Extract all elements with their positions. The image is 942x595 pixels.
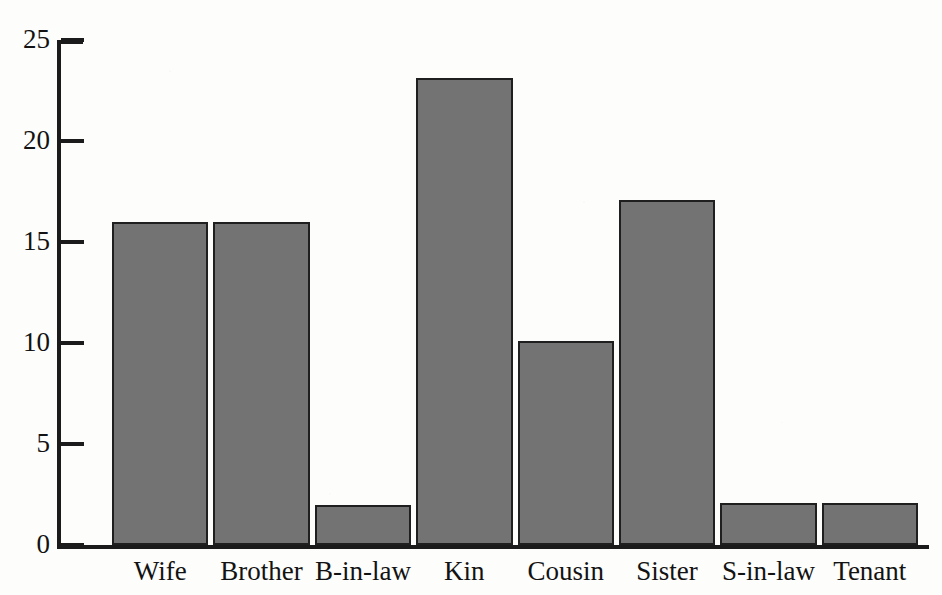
bar[interactable] — [112, 222, 208, 545]
bar-slot[interactable]: Brother — [213, 222, 309, 545]
bar[interactable] — [619, 200, 715, 545]
bar[interactable] — [822, 503, 918, 545]
y-axis-tick-label: 15 — [23, 228, 50, 255]
bar[interactable] — [416, 78, 512, 545]
x-axis-tick-label: Wife — [134, 558, 187, 585]
bar[interactable] — [213, 222, 309, 545]
x-axis-tick-label: Cousin — [527, 558, 604, 585]
bar[interactable] — [720, 503, 816, 545]
bar-slot[interactable]: Kin — [416, 78, 512, 545]
x-axis-spine — [57, 545, 929, 549]
x-axis-tick-label: Brother — [220, 558, 302, 585]
x-axis-tick-label: B-in-law — [315, 558, 411, 585]
bar-slot[interactable]: Tenant — [822, 503, 918, 545]
bar-slot[interactable]: Wife — [112, 222, 208, 545]
bar[interactable] — [518, 341, 614, 545]
bar-slot[interactable]: Cousin — [518, 341, 614, 545]
y-axis-tick-label: 10 — [23, 329, 50, 356]
y-axis-tick-label: 25 — [23, 26, 50, 53]
chart-figure: ___ ____ __ ___ ____ _____ __ ___ 051015… — [0, 0, 942, 595]
y-axis-tick-label: 5 — [37, 430, 51, 457]
bar-slot[interactable]: B-in-law — [315, 505, 411, 545]
x-axis-tick-label: Sister — [636, 558, 698, 585]
bar[interactable] — [315, 505, 411, 545]
x-axis-tick-label: Kin — [444, 558, 485, 585]
bars-layer: WifeBrotherB-in-lawKinCousinSisterS-in-l… — [57, 40, 929, 545]
cropped-caption-bleed: ___ ____ __ ___ ____ _____ __ ___ — [0, 0, 942, 7]
bar-slot[interactable]: S-in-law — [720, 503, 816, 545]
y-axis-tick-label: 20 — [23, 127, 50, 154]
bar-slot[interactable]: Sister — [619, 200, 715, 545]
x-axis-tick-label: Tenant — [833, 558, 906, 585]
y-axis-tick-label: 0 — [37, 531, 51, 558]
x-axis-tick-label: S-in-law — [722, 558, 815, 585]
plot-area: 0510152025 WifeBrotherB-in-lawKinCousinS… — [57, 40, 929, 545]
